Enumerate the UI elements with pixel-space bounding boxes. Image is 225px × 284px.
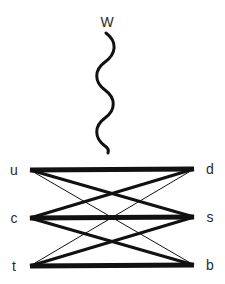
w-boson-wave-line <box>97 33 114 153</box>
up-type-quark-labels: u c t <box>10 162 18 274</box>
coupling-line-u-d <box>30 169 194 170</box>
quark-label-c: c <box>11 210 18 226</box>
quark-label-t: t <box>12 258 16 274</box>
quark-label-d: d <box>206 161 214 177</box>
quark-label-s: s <box>207 209 214 225</box>
coupling-lines <box>30 169 194 266</box>
w-boson-label: W <box>100 14 114 30</box>
quark-label-b: b <box>206 257 214 273</box>
down-type-quark-labels: d s b <box>206 161 214 273</box>
ckm-diagram: W u c t d s b <box>0 0 225 284</box>
coupling-line-t-b <box>30 265 194 266</box>
quark-label-u: u <box>10 162 18 178</box>
